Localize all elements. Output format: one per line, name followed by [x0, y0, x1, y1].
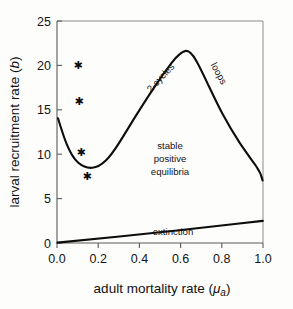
x-axis-ticks	[57, 243, 263, 248]
data-point-markers: ✱ ✱ ✱ ✱	[73, 59, 91, 183]
y-tick-label-10: 10	[37, 148, 51, 162]
x-tick-label-0.2: 0.2	[90, 252, 107, 266]
data-point-1: ✱	[73, 59, 82, 72]
y-axis-tick-labels: 25 20 15 10 5 0	[37, 15, 51, 251]
x-tick-label-1.0: 1.0	[254, 252, 271, 266]
x-axis-title-main: adult mortality rate (	[94, 281, 214, 296]
stable-region-label: stable positive equilibria	[151, 140, 190, 177]
loops-label: loops	[209, 61, 230, 87]
stable-line-3: equilibria	[151, 166, 190, 177]
stable-line-2: positive	[154, 153, 187, 164]
y-axis-title-close: )	[7, 57, 22, 62]
extinction-region-label: extinction	[153, 226, 194, 237]
x-tick-label-0.8: 0.8	[213, 252, 230, 266]
data-point-3: ✱	[76, 146, 85, 159]
y-tick-label-20: 20	[37, 59, 51, 73]
y-tick-label-0: 0	[44, 237, 51, 251]
y-tick-label-15: 15	[37, 103, 51, 117]
figure-panel: 25 20 15 10 5 0 0.0 0.2 0.4 0.6 0.8 1.0	[0, 0, 293, 309]
y-axis-title-main: larval recruitment rate (	[7, 68, 22, 207]
bifurcation-diagram: 25 20 15 10 5 0 0.0 0.2 0.4 0.6 0.8 1.0	[0, 0, 293, 309]
y-tick-label-5: 5	[44, 192, 51, 206]
x-axis-title-close: )	[226, 281, 231, 296]
x-axis-title: adult mortality rate (μa)	[94, 281, 231, 298]
x-tick-label-0.4: 0.4	[131, 252, 148, 266]
data-point-4: ✱	[82, 170, 91, 183]
stable-line-1: stable	[157, 140, 183, 151]
y-axis-title: larval recruitment rate (b)	[7, 57, 22, 208]
y-tick-label-25: 25	[37, 15, 51, 29]
data-point-2: ✱	[74, 95, 83, 108]
x-axis-tick-labels: 0.0 0.2 0.4 0.6 0.8 1.0	[48, 252, 271, 266]
two-cycles-label: 2-cycles	[144, 61, 176, 94]
x-tick-label-0.6: 0.6	[172, 252, 189, 266]
x-tick-label-0.0: 0.0	[48, 252, 65, 266]
